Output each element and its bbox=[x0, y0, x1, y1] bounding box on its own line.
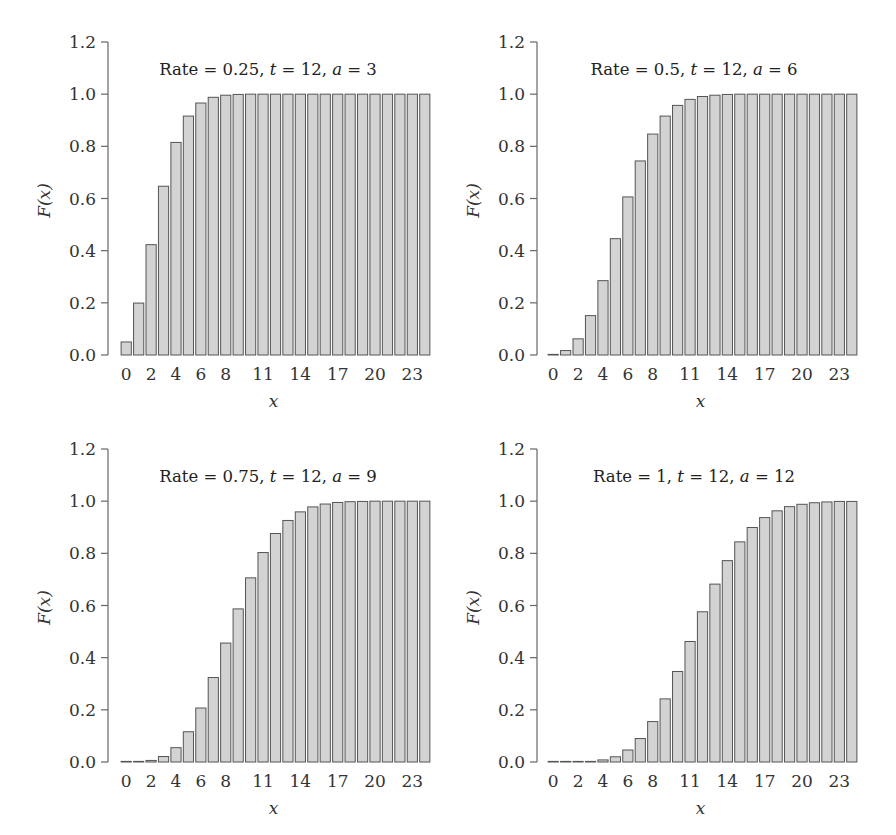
bar bbox=[382, 501, 392, 762]
bar bbox=[246, 94, 256, 355]
x-tick-label: 14 bbox=[290, 364, 312, 384]
y-axis-label: F(x) bbox=[463, 590, 483, 626]
x-tick-label: 11 bbox=[252, 771, 274, 791]
bar bbox=[158, 186, 168, 355]
x-tick-label: 4 bbox=[598, 364, 609, 384]
x-tick-label: 0 bbox=[548, 771, 559, 791]
bar bbox=[221, 643, 231, 762]
bar bbox=[610, 239, 620, 355]
x-tick-label: 23 bbox=[829, 771, 851, 791]
bar bbox=[295, 512, 305, 762]
x-tick-label: 8 bbox=[220, 364, 231, 384]
bar bbox=[784, 507, 794, 762]
bar bbox=[308, 507, 318, 762]
bar bbox=[710, 584, 720, 762]
bar bbox=[146, 245, 156, 355]
bar bbox=[320, 94, 330, 355]
bar bbox=[598, 760, 608, 762]
bar bbox=[196, 103, 206, 355]
bar bbox=[635, 739, 645, 762]
bar bbox=[847, 501, 857, 762]
chart-panel-1: 0.00.20.40.60.81.01.2024681114172023xF(x… bbox=[34, 32, 430, 411]
bar bbox=[710, 95, 720, 355]
bar bbox=[345, 502, 355, 762]
x-tick-label: 14 bbox=[290, 771, 312, 791]
bar bbox=[158, 757, 168, 762]
chart-panel-2: 0.00.20.40.60.81.01.2024681114172023xF(x… bbox=[463, 32, 857, 411]
x-axis-label: x bbox=[696, 391, 706, 411]
x-tick-label: 17 bbox=[327, 364, 349, 384]
x-tick-label: 20 bbox=[791, 771, 813, 791]
bar bbox=[308, 94, 318, 355]
x-tick-label: 2 bbox=[146, 364, 157, 384]
x-tick-label: 11 bbox=[252, 364, 274, 384]
bar bbox=[548, 354, 558, 355]
y-tick-label: 1.2 bbox=[498, 439, 525, 459]
x-tick-label: 11 bbox=[679, 364, 701, 384]
bar bbox=[760, 94, 770, 355]
bar bbox=[320, 504, 330, 762]
y-tick-label: 0.4 bbox=[498, 241, 525, 261]
bar bbox=[270, 94, 280, 355]
y-tick-label: 0.8 bbox=[69, 136, 96, 156]
bar bbox=[598, 281, 608, 355]
bar bbox=[809, 94, 819, 355]
bar bbox=[420, 94, 430, 355]
bar bbox=[635, 161, 645, 355]
chart-panel-3: 0.00.20.40.60.81.01.2024681114172023xF(x… bbox=[34, 439, 430, 818]
bar bbox=[407, 501, 417, 762]
bar bbox=[822, 502, 832, 762]
bar bbox=[648, 722, 658, 762]
x-tick-label: 23 bbox=[829, 364, 851, 384]
bar bbox=[233, 609, 243, 762]
y-tick-label: 0.2 bbox=[69, 293, 96, 313]
bar bbox=[797, 504, 807, 762]
y-tick-label: 0.8 bbox=[69, 543, 96, 563]
bar bbox=[822, 94, 832, 355]
bar bbox=[772, 511, 782, 762]
bar bbox=[171, 748, 181, 762]
bar bbox=[623, 197, 633, 355]
chart-title: Rate = 0.75, t = 12, a = 9 bbox=[159, 467, 377, 486]
bar bbox=[196, 708, 206, 762]
bar bbox=[221, 95, 231, 355]
chart-title: Rate = 1, t = 12, a = 12 bbox=[593, 467, 795, 486]
bar bbox=[283, 94, 293, 355]
bar bbox=[333, 502, 343, 762]
bar bbox=[370, 94, 380, 355]
y-tick-label: 0.0 bbox=[69, 345, 96, 365]
x-axis-label: x bbox=[269, 391, 279, 411]
bar bbox=[573, 761, 583, 762]
chart-title: Rate = 0.5, t = 12, a = 6 bbox=[590, 60, 797, 79]
bar bbox=[623, 750, 633, 762]
bar bbox=[722, 94, 732, 355]
x-tick-label: 20 bbox=[791, 364, 813, 384]
bar bbox=[134, 303, 144, 355]
bar bbox=[573, 339, 583, 355]
bar bbox=[735, 94, 745, 355]
x-tick-label: 4 bbox=[171, 364, 182, 384]
y-tick-label: 0.2 bbox=[69, 700, 96, 720]
bar bbox=[370, 501, 380, 762]
bar bbox=[834, 94, 844, 355]
bar bbox=[760, 518, 770, 762]
y-tick-label: 0.0 bbox=[498, 752, 525, 772]
bar bbox=[395, 501, 405, 762]
bar bbox=[233, 94, 243, 355]
x-tick-label: 17 bbox=[754, 364, 776, 384]
bar bbox=[648, 134, 658, 355]
x-tick-label: 8 bbox=[220, 771, 231, 791]
y-tick-label: 0.4 bbox=[69, 241, 96, 261]
x-tick-label: 2 bbox=[573, 364, 584, 384]
bar bbox=[420, 501, 430, 762]
bar bbox=[333, 94, 343, 355]
poisson-cdf-figure: 0.00.20.40.60.81.01.2024681114172023xF(x… bbox=[0, 0, 896, 835]
bar bbox=[121, 342, 131, 355]
bar bbox=[784, 94, 794, 355]
x-axis-label: x bbox=[696, 798, 706, 818]
y-tick-label: 0.6 bbox=[69, 596, 96, 616]
y-axis-label: F(x) bbox=[34, 590, 54, 626]
bar bbox=[357, 94, 367, 355]
x-tick-label: 11 bbox=[679, 771, 701, 791]
bar bbox=[697, 97, 707, 355]
